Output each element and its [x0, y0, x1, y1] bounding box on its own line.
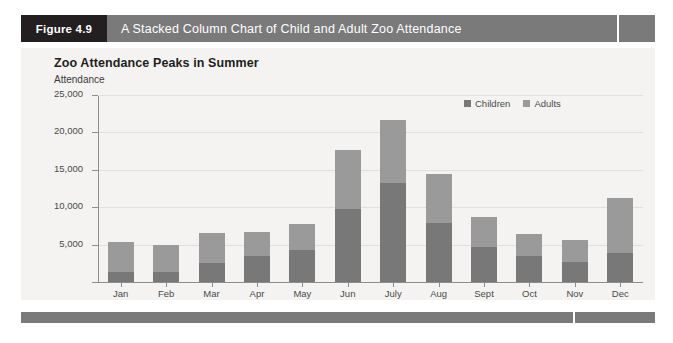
bar-segment-adults[interactable] — [562, 240, 588, 262]
bar-segment-children[interactable] — [335, 209, 361, 282]
x-axis-label: Jan — [101, 288, 141, 299]
y-axis-tick: 25,000 — [92, 95, 98, 96]
y-axis-tick: 20,000 — [92, 132, 98, 133]
bar-segment-adults[interactable] — [516, 234, 542, 256]
bar-segment-children[interactable] — [153, 272, 179, 282]
figure-number-block: Figure 4.9 — [21, 15, 107, 42]
bar-segment-children[interactable] — [426, 223, 452, 282]
footer-rule-main — [21, 312, 573, 323]
x-axis-tick — [484, 283, 485, 287]
figure-caption-text: A Stacked Column Chart of Child and Adul… — [121, 22, 462, 36]
y-gridline — [99, 132, 643, 133]
y-axis-line — [98, 96, 99, 283]
y-axis-tick: 15,000 — [92, 170, 98, 171]
figure-number-label: Figure 4.9 — [36, 23, 92, 35]
bar-column[interactable] — [289, 224, 315, 282]
x-axis-tick — [166, 283, 167, 287]
bar-segment-children[interactable] — [380, 183, 406, 282]
bar-segment-children[interactable] — [244, 256, 270, 282]
plot-area: 5,00010,00015,00020,00025,000 JanFebMarA… — [98, 88, 643, 290]
x-axis-label: Mar — [192, 288, 232, 299]
bar-segment-children[interactable] — [607, 253, 633, 282]
x-axis-label: May — [282, 288, 322, 299]
bar-column[interactable] — [108, 242, 134, 282]
bar-segment-children[interactable] — [199, 263, 225, 282]
x-axis-line — [98, 282, 643, 283]
footer-rule-tail — [575, 312, 655, 323]
bar-column[interactable] — [153, 245, 179, 282]
figure-header: Figure 4.9 A Stacked Column Chart of Chi… — [21, 15, 655, 42]
x-axis-label: July — [373, 288, 413, 299]
x-axis-tick — [529, 283, 530, 287]
bar-column[interactable] — [380, 120, 406, 282]
bar-column[interactable] — [516, 234, 542, 282]
bar-column[interactable] — [244, 232, 270, 282]
bar-segment-adults[interactable] — [335, 150, 361, 208]
bar-segment-adults[interactable] — [289, 224, 315, 249]
x-axis-label: Dec — [600, 288, 640, 299]
figure-page: Figure 4.9 A Stacked Column Chart of Chi… — [0, 0, 673, 343]
x-axis-tick — [393, 283, 394, 287]
y-axis-tick-label: 10,000 — [54, 200, 83, 211]
x-axis-tick — [348, 283, 349, 287]
y-axis-tick-label: 15,000 — [54, 163, 83, 174]
x-axis-tick — [121, 283, 122, 287]
bar-segment-children[interactable] — [289, 250, 315, 282]
x-axis-tick — [212, 283, 213, 287]
bar-segment-children[interactable] — [516, 256, 542, 282]
y-axis-tick-label: 5,000 — [59, 238, 83, 249]
x-axis-label: Nov — [555, 288, 595, 299]
bar-column[interactable] — [199, 233, 225, 282]
x-axis-tick — [575, 283, 576, 287]
y-axis-tick-label: 20,000 — [54, 125, 83, 136]
bar-column[interactable] — [335, 150, 361, 282]
y-axis-tick: 5,000 — [92, 245, 98, 246]
x-axis-label: Feb — [146, 288, 186, 299]
x-axis-tick — [439, 283, 440, 287]
chart-title: Zoo Attendance Peaks in Summer — [54, 56, 259, 70]
bar-segment-adults[interactable] — [471, 217, 497, 247]
bar-column[interactable] — [426, 174, 452, 282]
x-axis-label: Aug — [419, 288, 459, 299]
bar-segment-adults[interactable] — [380, 120, 406, 183]
x-axis-label: Jun — [328, 288, 368, 299]
bar-segment-adults[interactable] — [244, 232, 270, 256]
bar-segment-children[interactable] — [471, 247, 497, 282]
x-axis-tick — [620, 283, 621, 287]
bar-segment-children[interactable] — [562, 262, 588, 282]
bar-column[interactable] — [562, 240, 588, 282]
y-gridline — [99, 170, 643, 171]
x-axis-label: Apr — [237, 288, 277, 299]
bar-column[interactable] — [471, 217, 497, 282]
y-gridline — [99, 95, 643, 96]
bar-segment-adults[interactable] — [199, 233, 225, 263]
bar-segment-adults[interactable] — [108, 242, 134, 272]
bar-column[interactable] — [607, 198, 633, 282]
bar-segment-children[interactable] — [108, 272, 134, 282]
x-axis-tick — [302, 283, 303, 287]
bar-segment-adults[interactable] — [607, 198, 633, 253]
bar-segment-adults[interactable] — [426, 174, 452, 223]
y-axis-tick-label: 25,000 — [54, 88, 83, 99]
figure-caption-block: A Stacked Column Chart of Child and Adul… — [107, 15, 617, 42]
y-axis-tick — [92, 282, 98, 283]
chart-panel: Zoo Attendance Peaks in Summer Attendanc… — [21, 48, 655, 300]
x-axis-tick — [257, 283, 258, 287]
x-axis-label: Oct — [509, 288, 549, 299]
y-axis-tick: 10,000 — [92, 207, 98, 208]
x-axis-label: Sept — [464, 288, 504, 299]
y-axis-title: Attendance — [54, 74, 105, 85]
bar-segment-adults[interactable] — [153, 245, 179, 271]
figure-header-tail — [619, 15, 655, 42]
y-gridline — [99, 207, 643, 208]
footer-rule — [21, 312, 655, 323]
